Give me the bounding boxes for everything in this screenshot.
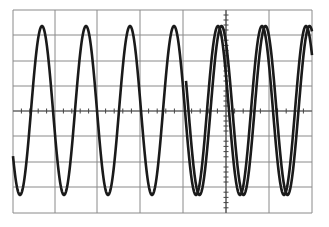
oscilloscope-display (0, 0, 329, 227)
